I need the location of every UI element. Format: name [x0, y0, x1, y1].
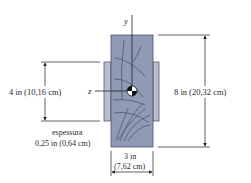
z-axis-label: z	[87, 86, 92, 96]
beam-width-label-2: (7,62 cm)	[114, 162, 145, 171]
right-plate	[153, 62, 159, 121]
centroid-icon	[127, 86, 137, 96]
beam-height-label: 8 in (20,32 cm)	[174, 87, 227, 97]
beam-width-label-1: 3 in	[124, 152, 136, 161]
y-axis-label: y	[123, 16, 128, 26]
thickness-label-2: 0,25 in (0,64 cm)	[35, 139, 91, 148]
cross-section-diagram: y z 4 in (10,16 cm) espessura 0,25 in (0…	[0, 0, 251, 183]
thickness-label-1: espessura	[52, 128, 83, 137]
left-plate	[104, 62, 111, 121]
flange-height-label: 4 in (10,16 cm)	[9, 87, 62, 97]
